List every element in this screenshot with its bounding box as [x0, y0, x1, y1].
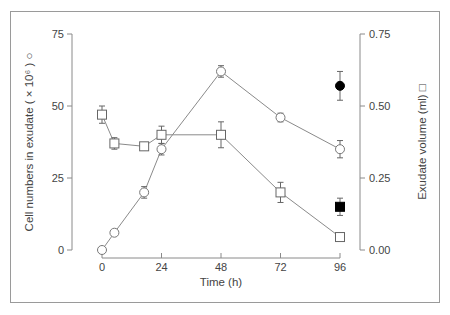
left-axis-tick-label: 0	[58, 244, 64, 256]
open-square-marker	[140, 142, 149, 151]
chart: 02550750.000.250.500.75024487296 Time (h…	[0, 0, 450, 315]
data-series	[98, 66, 345, 255]
open-square-marker	[276, 188, 285, 197]
right-axis-tick-label: 0.50	[369, 100, 390, 112]
open-square-marker	[110, 139, 119, 148]
series-filled-square	[336, 198, 345, 215]
open-circle-marker	[157, 145, 166, 154]
right-axis-tick-label: 0.25	[369, 172, 390, 184]
y-axis-title-right: Exudate volume (ml) □	[416, 84, 428, 200]
series-filled-circle	[336, 71, 345, 100]
left-axis-tick-label: 75	[52, 28, 64, 40]
right-axis-tick-label: 0.00	[369, 244, 390, 256]
filled-square-marker	[336, 202, 345, 211]
x-axis-tick-label: 72	[274, 261, 286, 273]
x-axis-tick-label: 24	[155, 261, 167, 273]
open-circle-marker	[336, 145, 345, 154]
x-axis-tick-label: 48	[215, 261, 227, 273]
open-circle-marker	[98, 246, 107, 255]
open-circle-marker	[276, 113, 285, 122]
open-circle-marker	[217, 67, 226, 76]
filled-circle-marker	[336, 81, 345, 90]
left-axis-tick-label: 25	[52, 172, 64, 184]
right-axis-tick-label: 0.75	[369, 28, 390, 40]
series-line	[102, 71, 340, 250]
series-open-circle	[98, 66, 345, 255]
open-circle-marker	[140, 188, 149, 197]
open-square-marker	[336, 233, 345, 242]
left-axis-tick-label: 50	[52, 100, 64, 112]
open-square-marker	[217, 130, 226, 139]
y-axis-title-left: Cell numbers in exudate ( × 10⁶ ) ○	[23, 53, 35, 232]
x-axis-tick-label: 0	[99, 261, 105, 273]
open-circle-marker	[110, 228, 119, 237]
open-square-marker	[98, 110, 107, 119]
x-axis-title: Time (h)	[200, 276, 243, 288]
x-axis-tick-label: 96	[334, 261, 346, 273]
open-square-marker	[157, 130, 166, 139]
series-open-square	[98, 106, 345, 242]
